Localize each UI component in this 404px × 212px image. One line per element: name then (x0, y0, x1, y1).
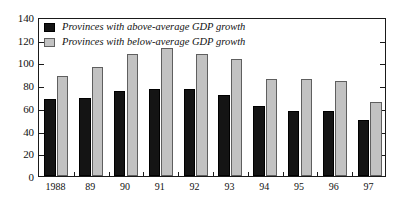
y-tick-label: 80 (0, 81, 34, 92)
y-tick-mark-right (380, 87, 385, 88)
x-tick-label: 96 (329, 182, 339, 192)
bar-below-average-94 (266, 79, 278, 176)
legend-label-below: Provinces with below-average GDP growth (62, 37, 245, 48)
bar-below-average-91 (161, 48, 173, 176)
y-axis: 020406080100120140 (0, 0, 34, 212)
y-tick-mark (39, 64, 44, 65)
bar-above-average-95 (288, 111, 300, 176)
y-tick-label: 140 (0, 13, 34, 24)
bar-above-average-92 (184, 89, 196, 176)
bar-above-average-93 (218, 95, 230, 176)
y-tick-mark (39, 133, 44, 134)
bar-above-average-96 (323, 111, 335, 176)
x-tick-mark (143, 172, 144, 176)
x-tick-mark (317, 172, 318, 176)
bar-below-average-90 (127, 54, 139, 176)
y-tick-label: 20 (0, 149, 34, 160)
x-tick-label: 97 (364, 182, 374, 192)
bar-below-average-95 (301, 79, 313, 176)
x-tick-mark (178, 172, 179, 176)
y-tick-label: 100 (0, 58, 34, 69)
x-tick-label: 93 (224, 182, 234, 192)
x-tick-mark (283, 172, 284, 176)
x-tick-mark (74, 172, 75, 176)
chart-legend: Provinces with above-average GDP growth … (44, 21, 245, 51)
x-tick-label: 1988 (45, 182, 65, 192)
y-tick-mark-right (380, 42, 385, 43)
y-tick-label: 40 (0, 126, 34, 137)
bar-below-average-93 (231, 59, 243, 176)
y-tick-label: 0 (0, 172, 34, 183)
y-tick-mark (39, 87, 44, 88)
legend-swatch-below-icon (44, 38, 55, 47)
y-tick-mark-right (380, 64, 385, 65)
bar-below-average-97 (370, 102, 382, 176)
x-tick-mark (248, 172, 249, 176)
legend-item-below: Provinces with below-average GDP growth (44, 36, 245, 49)
bar-above-average-1988 (44, 99, 56, 176)
bar-above-average-97 (358, 120, 370, 176)
x-tick-label: 95 (294, 182, 304, 192)
bar-below-average-1988 (57, 76, 69, 176)
bar-below-average-89 (92, 67, 104, 176)
bar-chart: 020406080100120140 Provinces with above-… (0, 0, 404, 212)
x-tick-mark (213, 172, 214, 176)
x-tick-label: 94 (259, 182, 269, 192)
y-tick-mark (39, 110, 44, 111)
y-tick-mark (39, 155, 44, 156)
bar-above-average-91 (149, 89, 161, 176)
x-tick-label: 92 (190, 182, 200, 192)
x-tick-mark (352, 172, 353, 176)
x-tick-mark (109, 172, 110, 176)
legend-label-above: Provinces with above-average GDP growth (62, 22, 245, 33)
legend-swatch-above-icon (44, 23, 55, 32)
x-tick-label: 91 (155, 182, 165, 192)
bar-above-average-94 (253, 106, 265, 176)
bar-above-average-90 (114, 91, 126, 176)
bar-below-average-96 (335, 81, 347, 176)
legend-item-above: Provinces with above-average GDP growth (44, 21, 245, 34)
x-tick-label: 89 (85, 182, 95, 192)
y-tick-label: 120 (0, 35, 34, 46)
bar-below-average-92 (196, 54, 208, 176)
x-tick-label: 90 (120, 182, 130, 192)
bar-above-average-89 (79, 98, 91, 176)
y-tick-label: 60 (0, 103, 34, 114)
